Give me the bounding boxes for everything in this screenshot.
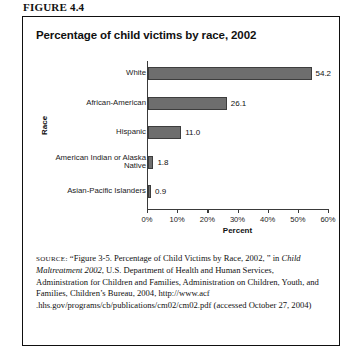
x-axis-tick [238,209,239,213]
x-axis-tick [268,209,269,213]
bar [148,156,153,169]
source-note: SOURCE: “Figure 3-5. Percentage of Child… [36,253,324,311]
bar-value-label: 0.9 [155,185,166,198]
bar [148,185,151,198]
x-axis-tick-label: 40% [260,215,275,224]
x-axis-tick-label: 0% [142,215,153,224]
y-axis-category-labels: WhiteAfrican-AmericanHispanicAmerican In… [50,61,146,209]
x-axis-tick-label: 50% [290,215,305,224]
x-axis-tick-label: 20% [200,215,215,224]
x-axis-tick [177,209,178,213]
bar [148,97,227,110]
x-axis-tick [147,209,148,213]
x-axis-title: Percent [147,226,328,235]
y-axis-label: Asian-Pacific Islanders [50,187,146,196]
x-axis-tick [298,209,299,213]
bar-value-label: 54.2 [316,67,332,80]
source-label: SOURCE: [36,255,68,263]
source-text-part1: “Figure 3-5. Percentage of Child Victims… [68,253,282,263]
bar-value-label: 26.1 [231,97,247,110]
bar-series: 54.226.111.01.80.9 [147,61,328,209]
x-axis-tick-label: 60% [320,215,335,224]
x-axis-tick-label: 10% [170,215,185,224]
figure-caption: FIGURE 4.4 [23,1,84,13]
chart-plot-area: Race WhiteAfrican-AmericanHispanicAmeric… [36,61,328,239]
x-axis-tick [328,209,329,213]
y-axis-title: Race [40,116,49,135]
x-axis-tick [207,209,208,213]
y-axis-label: American Indian or Alaska Native [50,154,146,171]
figure-frame: Percentage of child victims by race, 200… [22,16,340,346]
figure-page: FIGURE 4.4 Percentage of child victims b… [0,0,360,355]
y-axis-label: White [50,69,146,78]
bar [148,67,312,80]
bar [148,126,181,139]
x-axis-tick-label: 30% [230,215,245,224]
bar-value-label: 1.8 [157,156,168,169]
chart-title: Percentage of child victims by race, 200… [36,29,256,41]
y-axis-label: African-American [50,99,146,108]
y-axis-label: Hispanic [50,128,146,137]
bar-value-label: 11.0 [185,126,200,139]
x-axis: Percent 0%10%20%30%40%50%60% [147,209,328,239]
